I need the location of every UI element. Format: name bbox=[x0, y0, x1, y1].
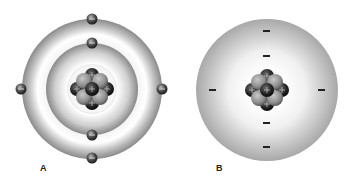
minus-icon bbox=[263, 55, 270, 57]
minus-icon bbox=[263, 122, 270, 124]
minus-icon bbox=[263, 146, 270, 148]
panel-label-a: A bbox=[40, 163, 47, 173]
electron-icon bbox=[87, 38, 98, 49]
electron-icon bbox=[87, 130, 98, 141]
electron-icon bbox=[16, 84, 27, 95]
atom-diagram bbox=[0, 0, 349, 181]
minus-icon bbox=[318, 89, 325, 91]
bohr-atom-a bbox=[16, 14, 168, 164]
cloud-atom-b bbox=[196, 19, 338, 161]
electron-icon bbox=[87, 153, 98, 164]
minus-icon bbox=[209, 89, 216, 91]
minus-icon bbox=[263, 30, 270, 32]
panel-label-b: B bbox=[216, 163, 223, 173]
electron-icon bbox=[157, 84, 168, 95]
electron-icon bbox=[87, 14, 98, 25]
